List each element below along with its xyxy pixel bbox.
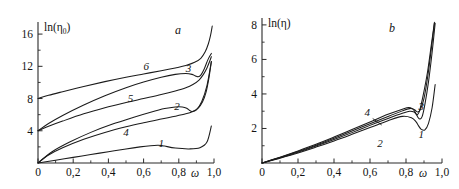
y-tick-label: 4 — [251, 88, 257, 100]
y-axis-label-base: ln(η — [44, 21, 63, 34]
figure-root: 00,20,40,60,81,0481216ln(η0)ωa123456 00,… — [0, 0, 459, 189]
curve-label-5: 5 — [128, 92, 134, 104]
data-curve-2 — [38, 61, 211, 163]
x-tick-label: 0,8 — [399, 166, 414, 179]
y-axis-label: ln(η0) — [44, 21, 71, 36]
axis-lines — [38, 22, 214, 163]
x-tick-label: 0,4 — [327, 166, 342, 179]
y-axis-label: ln(η) — [268, 17, 291, 30]
panel-label: b — [389, 21, 395, 35]
panel-label: a — [175, 23, 181, 37]
y-tick-label: 16 — [22, 28, 34, 40]
x-tick-label: 0,8 — [172, 166, 187, 179]
data-curve-3 — [262, 22, 434, 163]
x-axis-label: ω — [419, 167, 427, 179]
curve-label-4: 4 — [123, 126, 129, 138]
data-curve-1 — [262, 84, 435, 163]
curve-label-6: 6 — [143, 60, 149, 72]
x-tick-label: 0,4 — [101, 166, 116, 179]
x-tick-label: 0,6 — [363, 166, 378, 179]
curve-label-2: 2 — [174, 100, 180, 112]
y-tick-label: 4 — [27, 125, 33, 137]
y-tick-label: 8 — [27, 93, 33, 105]
curve-label-2: 2 — [377, 137, 383, 149]
x-tick-label: 0,2 — [66, 166, 81, 179]
y-tick-label: 6 — [251, 53, 257, 65]
curve-label-1: 1 — [419, 128, 425, 140]
chart-a-canvas: 00,20,40,60,81,0481216ln(η0)ωa123456 — [0, 0, 229, 189]
chart-panel-b: 00,20,40,60,81,02468ln(η)ωb1234 — [230, 0, 459, 189]
curve-label-1: 1 — [158, 137, 164, 149]
x-tick-label: 1,0 — [207, 166, 222, 179]
chart-b-canvas: 00,20,40,60,81,02468ln(η)ωb1234 — [230, 0, 459, 189]
x-tick-label: 0,2 — [291, 166, 306, 179]
chart-panel-a: 00,20,40,60,81,0481216ln(η0)ωa123456 — [0, 0, 229, 189]
x-tick-label: 0 — [259, 166, 265, 178]
y-tick-label: 8 — [251, 19, 257, 31]
x-axis-label: ω — [191, 167, 199, 179]
data-curve-4 — [38, 61, 211, 163]
data-curve-2 — [262, 23, 435, 163]
curve-label-4: 4 — [365, 106, 371, 118]
axis-lines — [262, 18, 442, 163]
x-tick-label: 1,0 — [435, 166, 450, 179]
data-curve-4 — [262, 23, 434, 163]
y-tick-label: 2 — [251, 122, 257, 134]
y-axis-label-close: ) — [67, 21, 71, 34]
x-tick-label: 0,6 — [136, 166, 151, 179]
x-tick-label: 0 — [35, 166, 41, 178]
y-tick-label: 12 — [22, 60, 34, 72]
